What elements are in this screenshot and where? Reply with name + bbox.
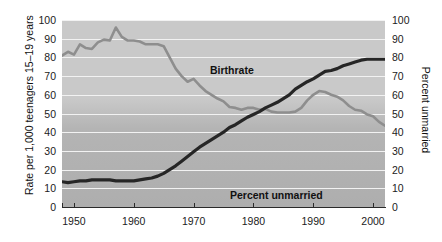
x-axis-tick-label-1980: 1980 [233,216,273,226]
y-axis-right-tick-80: 80 [392,52,418,62]
y-axis-right-tick-90: 90 [392,34,418,44]
y-axis-right-tick-70: 70 [392,71,418,81]
y-axis-right-tick-30: 30 [392,146,418,156]
x-axis-tick-label-2000: 2000 [353,216,393,226]
series-line-birthrate [62,27,385,125]
y-axis-origin-tick [62,203,63,208]
y-axis-right-tick-100: 100 [392,15,418,25]
x-axis-tick-1970 [194,203,195,208]
y-axis-left-title: Rate per 1,000 teenagers 15–19 years [23,25,35,195]
x-axis-tick-label-1950: 1950 [54,216,94,226]
y-axis-right-tick-50: 50 [392,109,418,119]
series-line-percent-unmarried [62,59,385,182]
y-axis-right-tick-0: 0 [392,202,418,212]
x-axis-tick-label-1970: 1970 [174,216,214,226]
series-svg [62,20,385,207]
x-axis-tick-1950 [74,203,75,208]
y-axis-right-tick-60: 60 [392,90,418,100]
series-layer [62,20,385,207]
x-axis-tick-1980 [253,203,254,208]
x-axis-tick-1960 [134,203,135,208]
y-axis-right-tick-20: 20 [392,165,418,175]
y-axis-right-tick-40: 40 [392,127,418,137]
x-axis-tick-label-1960: 1960 [114,216,154,226]
x-axis-line [62,207,386,208]
y-axis-right-tick-10: 10 [392,183,418,193]
y-axis-right-title: Percent unmarried [420,25,432,195]
series-annotation-birthrate: Birthrate [210,64,254,76]
y-axis-left-tick-0: 0 [30,202,56,212]
x-axis-tick-2000 [373,203,374,208]
series-annotation-percent-unmarried: Percent unmarried [230,189,323,201]
x-axis-tick-label-1990: 1990 [293,216,333,226]
x-axis-tick-1990 [313,203,314,208]
chart-container: Birthrate Percent unmarried 010203040506… [0,0,442,242]
plot-area: Birthrate Percent unmarried [62,20,385,207]
